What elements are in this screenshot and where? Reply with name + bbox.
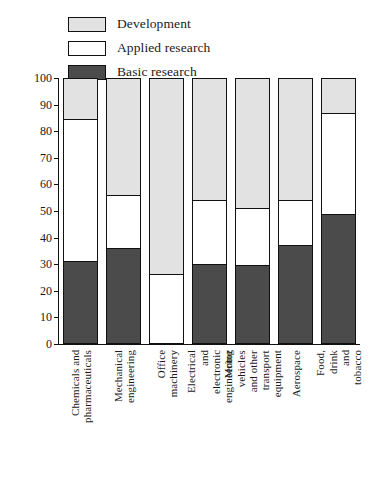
bar-segment-development	[150, 79, 182, 274]
table-row	[235, 78, 269, 344]
y-tick-label: 20	[40, 285, 52, 297]
y-tick-mark	[54, 238, 59, 239]
bar-segment-basic-research	[236, 265, 268, 343]
bar-segment-applied-research	[279, 200, 311, 245]
bar-segment-development	[279, 79, 311, 200]
bar-segment-development	[107, 79, 139, 195]
x-tick-label: Chemicals and pharmaceuticals	[68, 350, 93, 423]
y-tick-label: 90	[40, 99, 52, 111]
legend-swatch-icon	[68, 41, 106, 56]
bar-segment-applied-research	[322, 113, 354, 213]
x-tick-label: Mechanical engineering	[111, 350, 136, 403]
table-row	[63, 78, 97, 344]
stacked-bar-chart: DevelopmentApplied researchBasic researc…	[0, 0, 377, 496]
bar-segment-development	[193, 79, 225, 200]
x-axis-line	[58, 344, 360, 345]
legend-label: Development	[117, 17, 191, 31]
y-tick-mark	[54, 344, 59, 345]
bar-segment-development	[322, 79, 354, 113]
y-tick-mark	[54, 158, 59, 159]
x-tick-label: Motor vehicles and other transport equip…	[222, 350, 284, 397]
y-tick-mark	[54, 105, 59, 106]
chart-legend: DevelopmentApplied researchBasic researc…	[68, 14, 210, 86]
y-tick-mark	[54, 291, 59, 292]
y-tick-mark	[54, 78, 59, 79]
y-tick-mark	[54, 211, 59, 212]
table-row	[321, 78, 355, 344]
legend-label: Basic research	[117, 65, 197, 79]
bar-segment-applied-research	[150, 274, 182, 343]
bar-segment-development	[64, 79, 96, 119]
y-tick-label: 40	[40, 232, 52, 244]
bar-segment-applied-research	[236, 208, 268, 265]
y-tick-label: 100	[34, 72, 52, 84]
legend-swatch-icon	[68, 17, 106, 32]
bar-segment-basic-research	[193, 264, 225, 343]
bar-segment-basic-research	[107, 248, 139, 343]
table-row	[149, 78, 183, 344]
y-tick-label: 70	[40, 152, 52, 164]
bar-segment-basic-research	[322, 214, 354, 343]
bar-segment-basic-research	[64, 261, 96, 343]
y-tick-label: 50	[40, 205, 52, 217]
table-row	[278, 78, 312, 344]
table-row	[106, 78, 140, 344]
y-tick-mark	[54, 184, 59, 185]
legend-item: Development	[68, 14, 210, 34]
legend-item: Applied research	[68, 38, 210, 58]
bar-segment-development	[236, 79, 268, 208]
plot-area: Percentage 1009080706050403020100 Chemic…	[59, 78, 360, 344]
bar-segment-basic-research	[279, 245, 311, 343]
bar-segment-applied-research	[64, 119, 96, 262]
legend-label: Applied research	[117, 41, 210, 55]
bar-segment-applied-research	[193, 200, 225, 263]
y-tick-label: 30	[40, 258, 52, 270]
y-tick-label: 10	[40, 311, 52, 323]
y-tick-label: 60	[40, 178, 52, 190]
y-tick-label: 80	[40, 125, 52, 137]
y-tick-mark	[54, 317, 59, 318]
table-row	[192, 78, 226, 344]
x-tick-label: Office machinery	[154, 350, 179, 397]
x-tick-label: Aerospace	[289, 350, 301, 397]
bar-segment-applied-research	[107, 195, 139, 248]
x-tick-label: Food, drink and tobacco	[314, 350, 363, 385]
y-tick-mark	[54, 264, 59, 265]
y-tick-mark	[54, 131, 59, 132]
y-tick-label: 0	[46, 338, 52, 350]
